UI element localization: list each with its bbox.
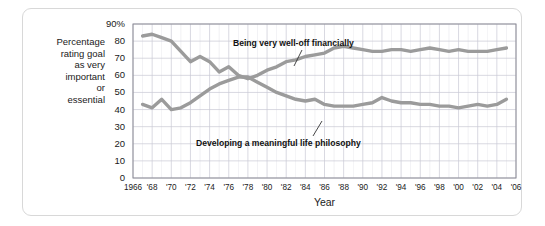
y-axis-title: Percentage rating goal as very important… [25,36,105,106]
annotation-leader-lines [294,50,322,136]
x-axis-title: Year [133,196,516,208]
y-tick-label-0: 0 [95,172,125,183]
y-tick-label-70: 70 [95,52,125,63]
y-axis-title-line-4: important [25,71,105,83]
y-tick-label-40: 40 [95,104,125,115]
y-axis-title-line-5: or [25,82,105,94]
y-axis-title-line-2: rating goal [25,48,105,60]
series-label-developing-a-meaningful-life-philosophy: Developing a meaningful life philosophy [196,138,361,148]
y-tick-label-20: 20 [95,138,125,149]
y-tick-label-50: 50 [95,86,125,97]
y-axis-title-line-3: as very [25,59,105,71]
plot-area [0,0,545,226]
y-tick-label-10: 10 [95,155,125,166]
line-chart: Percentage rating goal as very important… [0,0,545,226]
leader-line-philosophy [313,121,322,136]
y-tick-label-90: 90% [95,18,125,29]
y-tick-label-60: 60 [95,69,125,80]
x-tick-label-2006: '06 [496,183,536,192]
y-tick-label-80: 80 [95,35,125,46]
y-axis-title-line-6: essential [25,94,105,106]
series-label-being-very-well-off-financially: Being very well-off financially [233,38,354,48]
y-tick-label-30: 30 [95,121,125,132]
y-axis-title-line-1: Percentage [25,36,105,48]
